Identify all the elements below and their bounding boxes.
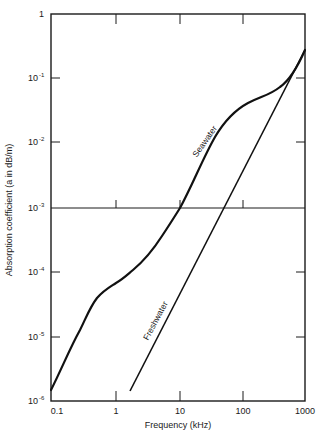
y-tick-exp: -4 <box>39 266 45 272</box>
y-tick-exp: -5 <box>39 331 45 337</box>
x-ticks-top <box>116 14 243 24</box>
y-tick-label: 10 <box>28 332 38 342</box>
x-axis-label: Frequency (kHz) <box>145 420 212 430</box>
x-tick-label: 1000 <box>295 406 315 416</box>
y-tick-label: 10 <box>28 73 38 83</box>
y-tick-labels: 1 10 -1 10 -2 10 -3 10 -4 10 -5 10 -6 <box>28 9 45 406</box>
y-tick-label: 10 <box>28 203 38 213</box>
y-tick-label: 1 <box>39 9 44 19</box>
y-tick-label: 10 <box>28 267 38 277</box>
y-tick-exp: -6 <box>39 395 45 401</box>
y-tick-exp: -2 <box>39 136 45 142</box>
y-tick-exp: -1 <box>39 72 45 78</box>
x-ticks-bottom <box>116 391 243 401</box>
x-tick-label: 0.1 <box>51 406 64 416</box>
seawater-label: Seawater <box>190 124 219 159</box>
freshwater-line <box>130 50 305 391</box>
y-tick-label: 10 <box>28 396 38 406</box>
x-tick-label: 1 <box>113 406 118 416</box>
y-tick-label: 10 <box>28 137 38 147</box>
absorption-chart: Seawater Freshwater 1 10 -1 10 -2 10 -3 … <box>0 0 323 439</box>
y-tick-exp: -3 <box>39 202 45 208</box>
x-tick-labels: 0.1 1 10 100 1000 <box>51 406 315 416</box>
seawater-curve <box>51 50 305 390</box>
x-tick-label: 10 <box>175 406 185 416</box>
x-tick-label: 100 <box>235 406 250 416</box>
y-axis-label: Absorption coefficient (a in dB/m) <box>4 144 14 276</box>
